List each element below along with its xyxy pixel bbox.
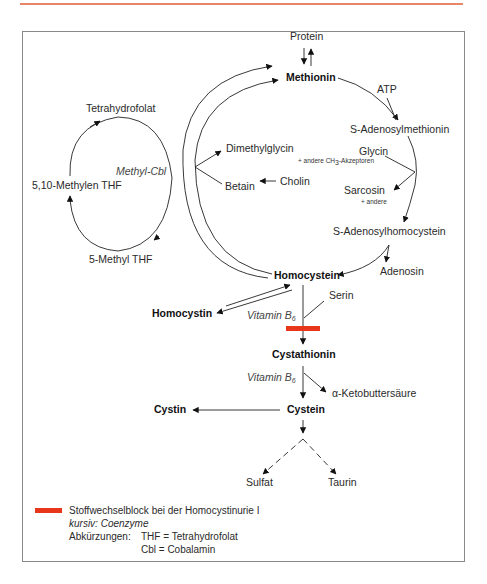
pathway-diagram (0, 0, 487, 584)
node-methyl-thf: 5-Methyl THF (89, 254, 152, 265)
legend-abbrev-title: Abkürzungen: (69, 532, 131, 542)
node-homocystein: Homocystein (274, 270, 340, 281)
legend-abbrev-cbl: Cbl = Cobalamin (141, 545, 215, 555)
node-cystein: Cystein (287, 404, 325, 415)
legend-block-label: Stoffwechselblock bei der Homocystinurie… (69, 506, 259, 516)
glycin-line (385, 156, 415, 172)
node-protein: Protein (290, 31, 323, 42)
node-atp: ATP (377, 84, 397, 95)
node-methylen-thf: 5,10-Methylen THF (32, 180, 122, 191)
node-taurin: Taurin (328, 477, 357, 488)
arc-sam-to-sah (404, 136, 416, 222)
node-s-adenosylmethionin: S-Adenosylmethionin (350, 124, 449, 135)
node-cystathionin: Cystathionin (272, 349, 336, 360)
outer-remethylation-arc (183, 66, 272, 278)
inner-remethylation-arc (195, 80, 278, 274)
node-dimethylglycin: Dimethylglycin (226, 143, 294, 154)
node-glycin: Glycin (359, 146, 388, 157)
dashed-to-sulfat (263, 439, 303, 474)
node-sulfat: Sulfat (246, 477, 273, 488)
coenzyme-vitamin-b6-1: Vitamin B6 (247, 310, 296, 322)
arrow-to-dimethylglycin (195, 151, 221, 167)
atp-line (387, 98, 396, 120)
legend-italic-note: kursiv: Coenzyme (69, 519, 148, 529)
glycin-note: + andere CH3-Akzeptoren (298, 158, 374, 166)
serin-line (304, 301, 324, 318)
node-serin: Serin (329, 290, 354, 301)
line-to-betain (195, 167, 222, 184)
node-cystin: Cystin (154, 404, 186, 415)
coenzyme-vitamin-b6-2: Vitamin B6 (247, 372, 296, 384)
arrow-folate-2 (154, 236, 159, 240)
coenzyme-methyl-cbl: Methyl-Cbl (116, 166, 166, 177)
node-methionin: Methionin (286, 72, 336, 83)
node-sarcosin: Sarcosin (344, 185, 385, 196)
node-tetrahydrofolat: Tetrahydrofolat (86, 103, 155, 114)
node-alpha-ketobuttersaeure: α-Ketobuttersäure (332, 388, 416, 399)
node-s-adenosylhomocystein: S-Adenosylhomocystein (333, 226, 446, 237)
dashed-to-taurin (303, 439, 336, 474)
node-cholin: Cholin (280, 176, 310, 187)
arrow-to-ketobuttersaeure (304, 373, 326, 392)
sarcosin-note: + andere (361, 199, 387, 206)
node-betain: Betain (225, 181, 255, 192)
arrow-to-homocystein (226, 285, 290, 306)
arrow-to-sarcosin (394, 172, 415, 190)
node-adenosin: Adenosin (380, 266, 424, 277)
arrow-folate-1 (90, 121, 100, 127)
metabolic-block-bar (286, 326, 320, 331)
legend-block-swatch (35, 508, 62, 513)
node-homocystin: Homocystin (152, 308, 212, 319)
legend-abbrev-thf: THF = Tetrahydrofolat (141, 532, 238, 542)
